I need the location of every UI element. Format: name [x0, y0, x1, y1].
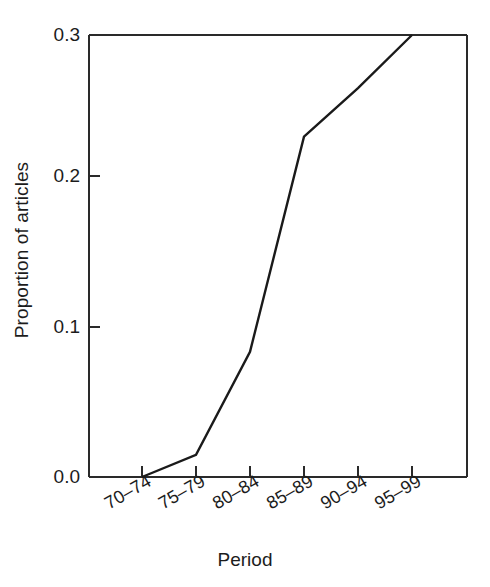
y-tick-label-0.1: 0.1	[24, 316, 80, 338]
y-tick-label-0.3: 0.3	[24, 24, 80, 46]
x-axis-ticks	[142, 466, 412, 477]
y-axis-ticks	[89, 35, 100, 477]
chart-figure: 0.3 0.2 0.1 0.0 70–74 75–79 80–84 85–89 …	[0, 0, 490, 587]
y-tick-label-0.2: 0.2	[24, 165, 80, 187]
plot-frame	[89, 35, 467, 477]
data-line-proportion-of-articles	[142, 35, 412, 477]
y-tick-label-0.0: 0.0	[24, 466, 80, 488]
x-axis-title: Period	[0, 549, 490, 571]
